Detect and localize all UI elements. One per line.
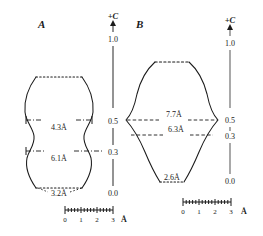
- panel-b-scalebar: 0 1 2 3 Å: [181, 198, 247, 216]
- panel-a-outline-left: [25, 77, 36, 188]
- panel-a-dim2-label: 6.1Å: [51, 154, 67, 163]
- panel-a-dim3-lineL: [38, 188, 48, 192]
- panel-a-dim3-lineR: [70, 188, 82, 192]
- panel-b-outline-right: [184, 62, 218, 182]
- panel-a-tick-0-5: 0.5: [108, 117, 118, 126]
- panel-b-dim1-label: 7.7Å: [166, 110, 182, 119]
- panel-b-dim3-label: 2.6Å: [164, 173, 180, 182]
- figure-container: A 4.3Å 6.1Å 3.2Å: [0, 0, 263, 236]
- panel-a-tick-0-3: 0.3: [108, 148, 118, 157]
- panel-b-tick-0-0: 0.0: [225, 177, 235, 186]
- panel-a-scale-3: 3: [111, 216, 115, 224]
- panel-a-scalebar: 0 1 2 3 Å: [63, 206, 127, 224]
- panel-b-axis-top-label: +C: [225, 15, 236, 25]
- panel-b-tick-0-3: 0.3: [225, 132, 235, 141]
- panel-b: B 7.7Å 6.3Å 2.6Å +C 1.0: [126, 15, 247, 216]
- panel-b-dim2-label: 6.3Å: [168, 125, 184, 134]
- panel-a-label: A: [37, 18, 45, 30]
- panel-a-axis-top-label: +C: [108, 11, 119, 21]
- panel-b-scale-2: 2: [213, 208, 217, 216]
- panel-b-scale-0: 0: [181, 208, 185, 216]
- panel-a-dim-3-2: 3.2Å: [38, 188, 82, 198]
- panel-b-scale-unit: Å: [241, 207, 247, 216]
- panel-a-scale-2: 2: [95, 216, 99, 224]
- panel-b-scale-3: 3: [229, 208, 233, 216]
- panel-b-dim-6-3: 6.3Å: [131, 125, 213, 135]
- panel-a-outline-right: [82, 77, 93, 188]
- panel-a-dim3-label: 3.2Å: [51, 189, 67, 198]
- panel-a: A 4.3Å 6.1Å 3.2Å: [25, 11, 127, 224]
- panel-a-c-axis: +C 1.0 0.5 0.3 0.0: [108, 11, 119, 198]
- panel-a-scale-0: 0: [63, 216, 67, 224]
- panel-a-tick-0-0: 0.0: [108, 189, 118, 198]
- panel-a-dim-4-3: 4.3Å: [26, 116, 92, 132]
- panel-b-label: B: [135, 18, 143, 30]
- panel-b-dim-2-6: 2.6Å: [164, 173, 180, 182]
- panel-b-scale-1: 1: [197, 208, 201, 216]
- panel-a-scale-unit: Å: [121, 215, 127, 224]
- panel-b-c-axis: +C 1.0 0.5 0.3 0.0: [225, 15, 236, 186]
- panel-b-outline-left: [126, 62, 160, 182]
- panel-a-scale-1: 1: [79, 216, 83, 224]
- panel-b-tick-0-5: 0.5: [225, 116, 235, 125]
- panel-a-tick-1-0: 1.0: [108, 35, 118, 44]
- panel-a-dim1-label: 4.3Å: [51, 123, 67, 132]
- panel-b-tick-1-0: 1.0: [225, 39, 235, 48]
- panel-b-dim-7-7: 7.7Å: [127, 110, 218, 120]
